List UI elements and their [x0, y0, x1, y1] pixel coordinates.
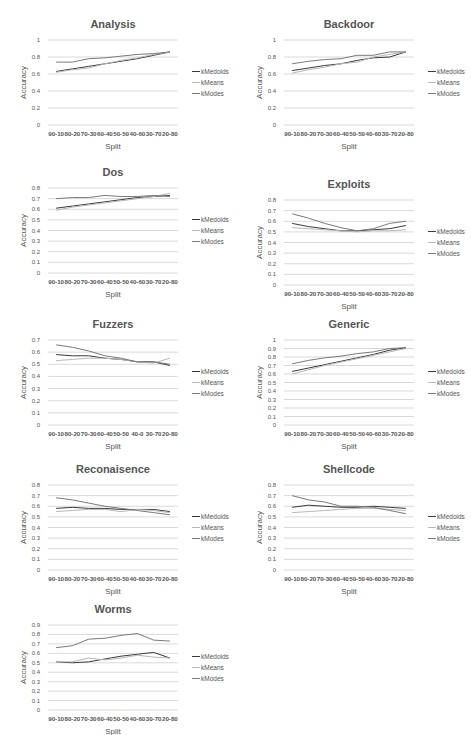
x-tick-label: 50-50 — [349, 430, 365, 437]
x-tick-label: 30-70 — [146, 278, 162, 285]
y-tick-label: 0.6 — [268, 503, 277, 509]
chart-generic: Generic00.10.20.30.40.50.60.70.80.9190-1… — [236, 300, 471, 450]
y-tick-label: 0.6 — [32, 71, 41, 77]
series-line-kmedoids — [56, 355, 170, 366]
legend-label: kMeans — [201, 79, 225, 86]
x-tick-label: 40-60 — [365, 130, 381, 137]
chart-exploits: Exploits00.10.20.30.40.50.60.70.890-1080… — [236, 160, 471, 310]
x-tick-label: 90-10 — [48, 130, 64, 137]
x-tick-label: 50-50 — [113, 130, 129, 137]
x-tick-label: 30-70 — [382, 130, 398, 137]
y-tick-label: 0.8 — [268, 197, 277, 203]
y-axis-label: Accuracy — [19, 366, 28, 399]
y-tick-label: 0.8 — [268, 354, 277, 360]
y-tick-label: 0.1 — [32, 556, 41, 562]
y-tick-label: 0.8 — [32, 482, 41, 488]
x-axis-label: Split — [105, 290, 121, 299]
x-tick-label: 60-40 — [97, 430, 113, 437]
chart-shellcode: Shellcode00.10.20.30.40.50.60.70.890-108… — [236, 445, 471, 595]
chart-title: Exploits — [328, 178, 371, 190]
x-axis-label: Split — [341, 142, 357, 151]
x-tick-label: 70-30 — [81, 575, 97, 582]
x-tick-label: 50-50 — [349, 290, 365, 297]
legend-label: kMeans — [437, 239, 461, 246]
y-tick-label: 0 — [37, 270, 41, 276]
y-tick-label: 0.2 — [32, 688, 41, 694]
x-tick-label: 80-20 — [64, 130, 80, 137]
x-tick-label: 90-10 — [48, 278, 64, 285]
y-tick-label: 0.6 — [268, 218, 277, 224]
y-tick-label: 0.5 — [32, 217, 41, 223]
series-line-kmeans — [56, 655, 170, 662]
x-tick-label: 80-20 — [64, 575, 80, 582]
x-tick-label: 40-60 — [129, 575, 145, 582]
y-tick-label: 0.6 — [268, 71, 277, 77]
x-tick-label: 70-30 — [81, 430, 97, 437]
y-tick-label: 0 — [37, 422, 41, 428]
x-tick-label: 50-50 — [113, 575, 129, 582]
y-tick-label: 0.2 — [32, 105, 41, 111]
y-tick-label: 0.2 — [32, 546, 41, 552]
y-tick-label: 0.7 — [268, 493, 277, 499]
legend-label: kMeans — [201, 379, 225, 386]
y-tick-label: 0.1 — [268, 556, 277, 562]
x-tick-label: 80-20 — [300, 430, 316, 437]
legend-label: kMeans — [437, 524, 461, 531]
x-tick-label: 70-30 — [317, 130, 333, 137]
x-tick-label: 20-80 — [162, 430, 178, 437]
legend-label: kMeans — [201, 664, 225, 671]
x-tick-label: 30-70 — [146, 715, 162, 722]
x-tick-label: 70-30 — [81, 278, 97, 285]
legend-label: kModes — [201, 238, 225, 245]
x-tick-label: 80-20 — [300, 130, 316, 137]
y-tick-label: 0.7 — [32, 493, 41, 499]
y-axis-label: Accuracy — [255, 226, 264, 259]
x-tick-label: 60-40 — [97, 278, 113, 285]
chart-reconaisence: Reconaisence00.10.20.30.40.50.60.70.890-… — [0, 445, 235, 595]
legend-label: kMedoids — [437, 228, 466, 235]
y-tick-label: 0.2 — [268, 405, 277, 411]
y-tick-label: 0.9 — [268, 346, 277, 352]
y-axis-label: Accuracy — [255, 366, 264, 399]
y-tick-label: 0.4 — [32, 525, 41, 531]
y-tick-label: 0.5 — [268, 380, 277, 386]
y-tick-label: 0.6 — [32, 650, 41, 656]
legend-label: kMedoids — [201, 513, 230, 520]
y-tick-label: 0.7 — [32, 641, 41, 647]
y-tick-label: 0.4 — [32, 88, 41, 94]
y-tick-label: 0.6 — [32, 503, 41, 509]
y-tick-label: 0.3 — [268, 535, 277, 541]
x-tick-label: 60-40 — [333, 430, 349, 437]
legend-label: kMedoids — [201, 653, 230, 660]
y-tick-label: 0.2 — [32, 398, 41, 404]
y-axis-label: Accuracy — [19, 511, 28, 544]
x-tick-label: 40-60 — [365, 290, 381, 297]
y-tick-label: 0.2 — [268, 261, 277, 267]
x-tick-label: 40-60 — [365, 430, 381, 437]
x-axis-label: Split — [105, 727, 121, 735]
y-tick-label: 0 — [273, 282, 277, 288]
series-line-kmodes — [56, 345, 170, 364]
y-tick-label: 0.2 — [268, 546, 277, 552]
x-tick-label: 20-80 — [162, 575, 178, 582]
y-tick-label: 0.4 — [268, 240, 277, 246]
legend-label: kMeans — [201, 227, 225, 234]
legend-label: kModes — [201, 535, 225, 542]
x-tick-label: 60-40 — [97, 130, 113, 137]
x-tick-label: 80-20 — [300, 290, 316, 297]
x-tick-label: 30-70 — [382, 430, 398, 437]
x-tick-label: 80-20 — [64, 715, 80, 722]
x-tick-label: 20-80 — [398, 290, 414, 297]
chart-dos: Dos00.10.20.30.40.50.60.70.890-1080-2070… — [0, 148, 235, 298]
legend-label: kModes — [201, 675, 225, 682]
chart-title: Generic — [329, 318, 370, 330]
y-tick-label: 0.3 — [268, 250, 277, 256]
x-tick-label: 80-20 — [300, 575, 316, 582]
y-tick-label: 0.6 — [32, 206, 41, 212]
y-tick-label: 0.1 — [268, 414, 277, 420]
x-tick-label: 60-40 — [333, 575, 349, 582]
x-tick-label: 20-80 — [162, 130, 178, 137]
legend-label: kMeans — [437, 79, 461, 86]
x-tick-label: 20-80 — [398, 575, 414, 582]
x-tick-label: 40-60 — [129, 278, 145, 285]
